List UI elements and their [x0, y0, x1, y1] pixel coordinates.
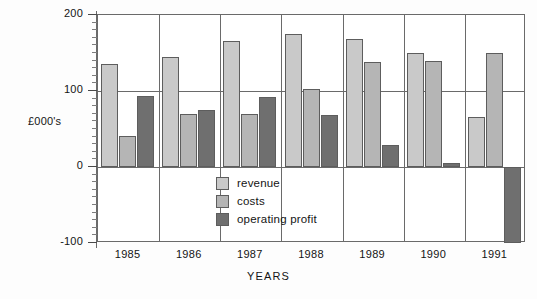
y-axis: -1000100200 [88, 9, 97, 247]
x-tick-label-1985: 1985 [97, 248, 158, 260]
panel-separator [404, 15, 405, 241]
bar-revenue-1990 [407, 53, 424, 167]
y-axis-title: £000's [28, 115, 61, 127]
bar-operating-profit-1990 [443, 163, 460, 167]
x-tick-label-1987: 1987 [219, 248, 280, 260]
legend-item-revenue: revenue [216, 174, 317, 192]
y-tick-major: 0 [88, 166, 97, 167]
x-tick-label-1991: 1991 [464, 248, 525, 260]
chart-legend: revenue costs operating profit [216, 174, 317, 228]
legend-swatch-operating-profit [216, 213, 229, 226]
bar-costs-1986 [180, 114, 197, 167]
y-tick-major: 100 [88, 90, 97, 91]
bar-costs-1988 [303, 89, 320, 167]
y-tick-major: -100 [88, 242, 97, 243]
legend-label-revenue: revenue [237, 177, 280, 189]
bar-operating-profit-1988 [321, 115, 338, 167]
legend-item-costs: costs [216, 192, 317, 210]
legend-label-costs: costs [237, 195, 265, 207]
y-tick-label: 0 [77, 160, 83, 171]
gridline [98, 167, 524, 168]
bar-revenue-1988 [285, 34, 302, 167]
y-tick-label: -100 [60, 236, 83, 247]
panel-separator [343, 15, 344, 241]
legend-swatch-costs [216, 195, 229, 208]
y-tick-major: 200 [88, 14, 97, 15]
bar-costs-1985 [119, 136, 136, 167]
bar-costs-1987 [241, 114, 258, 167]
bar-revenue-1987 [223, 41, 240, 167]
x-tick-label-1989: 1989 [342, 248, 403, 260]
x-tick-label-1990: 1990 [403, 248, 464, 260]
bar-operating-profit-1985 [137, 96, 154, 167]
bar-revenue-1986 [162, 57, 179, 167]
legend-item-operating-profit: operating profit [216, 210, 317, 228]
legend-swatch-revenue [216, 177, 229, 190]
x-axis-title: YEARS [0, 270, 537, 282]
bar-costs-1991 [486, 53, 503, 167]
bar-operating-profit-1987 [259, 97, 276, 167]
bar-revenue-1985 [101, 64, 118, 167]
x-tick-label-1988: 1988 [280, 248, 341, 260]
bar-operating-profit-1991 [504, 167, 521, 243]
panel-separator [465, 15, 466, 241]
y-tick-label: 200 [64, 8, 83, 19]
x-tick-label-1986: 1986 [158, 248, 219, 260]
bar-costs-1990 [425, 61, 442, 167]
bar-chart: -1000100200 £000's revenue costs operati… [0, 0, 537, 299]
bar-costs-1989 [364, 62, 381, 167]
y-tick-label: 100 [64, 84, 83, 95]
legend-label-operating-profit: operating profit [237, 213, 317, 225]
bar-operating-profit-1986 [198, 110, 215, 167]
bar-revenue-1989 [346, 39, 363, 167]
bar-revenue-1991 [468, 117, 485, 167]
bar-operating-profit-1989 [382, 145, 399, 167]
panel-separator [159, 15, 160, 241]
